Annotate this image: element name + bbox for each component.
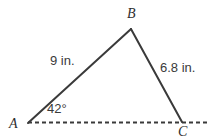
vertex-label-a: A	[9, 117, 18, 131]
side-bc-length-label: 6.8 in.	[160, 61, 195, 74]
side-ab-length-label: 9 in.	[50, 54, 75, 67]
vertex-label-c: C	[178, 125, 187, 138]
vertex-label-b: B	[127, 7, 136, 21]
side-ab-line	[28, 29, 131, 123]
diagram-canvas: B A C 9 in. 6.8 in. 42°	[0, 0, 208, 138]
angle-a-label: 42°	[47, 102, 67, 115]
side-bc-line	[131, 29, 182, 122]
